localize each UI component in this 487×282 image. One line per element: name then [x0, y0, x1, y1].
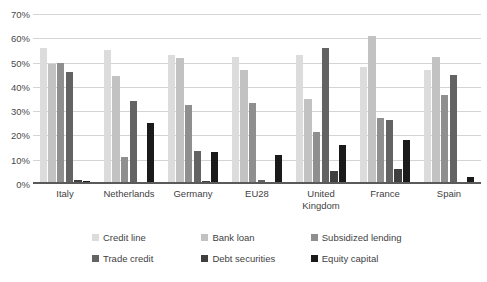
bar — [211, 152, 219, 184]
bar — [403, 140, 411, 184]
x-axis-category-labels: ItalyNetherlandsGermanyEU28United Kingdo… — [33, 188, 481, 211]
bar — [322, 48, 330, 184]
x-tick-label: United Kingdom — [289, 188, 353, 211]
bar — [232, 57, 240, 185]
bar-group — [97, 14, 161, 184]
chart-legend: Credit lineBank loanSubsidized lendingTr… — [92, 232, 432, 264]
x-tick-label: EU28 — [225, 188, 289, 211]
legend-label: Debt securities — [212, 253, 275, 264]
bar-group — [161, 14, 225, 184]
legend-item[interactable]: Subsidized lending — [311, 232, 432, 243]
legend-swatch-icon — [201, 234, 208, 241]
bar-group — [225, 14, 289, 184]
y-tick-label: 40% — [11, 81, 30, 92]
bar — [147, 123, 155, 184]
bar — [130, 101, 138, 184]
x-tick-label: Italy — [33, 188, 97, 211]
y-tick-label: 10% — [11, 154, 30, 165]
bar — [368, 36, 376, 184]
bar-group — [353, 14, 417, 184]
legend-swatch-icon — [311, 255, 318, 262]
bar — [441, 95, 449, 184]
legend-item[interactable]: Bank loan — [201, 232, 306, 243]
legend-item[interactable]: Debt securities — [201, 253, 306, 264]
bar-group — [417, 14, 481, 184]
bar — [386, 120, 394, 184]
bar — [275, 155, 283, 184]
x-tick-label: Spain — [417, 188, 481, 211]
bar — [339, 145, 347, 184]
legend-swatch-icon — [92, 234, 99, 241]
bar — [48, 64, 56, 184]
bar — [313, 132, 321, 184]
x-tick-label: Netherlands — [97, 188, 161, 211]
legend-label: Subsidized lending — [322, 232, 402, 243]
x-tick-label: Germany — [161, 188, 225, 211]
bar — [40, 48, 48, 184]
bar — [450, 75, 458, 184]
bar-groups — [33, 14, 481, 184]
y-axis-tick-labels: 0%10%20%30%40%50%60%70% — [0, 14, 30, 184]
bar — [360, 67, 368, 184]
legend-item[interactable]: Equity capital — [311, 253, 432, 264]
bar-group — [289, 14, 353, 184]
bar — [57, 63, 65, 184]
x-axis-line — [33, 182, 481, 184]
legend-item[interactable]: Credit line — [92, 232, 197, 243]
bar-group — [33, 14, 97, 184]
bar-chart: 0%10%20%30%40%50%60%70% ItalyNetherlands… — [0, 0, 487, 282]
plot-area — [33, 14, 481, 184]
bar — [185, 105, 193, 184]
y-tick-label: 60% — [11, 33, 30, 44]
legend-item[interactable]: Trade credit — [92, 253, 197, 264]
bar — [121, 157, 129, 184]
bar — [432, 57, 440, 185]
bar — [240, 70, 248, 184]
legend-swatch-icon — [92, 255, 99, 262]
y-tick-label: 0% — [16, 179, 30, 190]
legend-swatch-icon — [311, 234, 318, 241]
bar — [304, 99, 312, 184]
bar — [168, 55, 176, 184]
bar — [249, 103, 257, 184]
bar — [176, 58, 184, 184]
legend-label: Bank loan — [212, 232, 254, 243]
bar — [194, 151, 202, 184]
legend-swatch-icon — [201, 255, 208, 262]
bar — [66, 72, 74, 184]
bar — [104, 50, 112, 184]
y-tick-label: 30% — [11, 106, 30, 117]
bar — [112, 76, 120, 184]
bar — [377, 118, 385, 184]
legend-label: Credit line — [103, 232, 146, 243]
bar — [296, 55, 304, 184]
y-tick-label: 20% — [11, 130, 30, 141]
x-tick-label: France — [353, 188, 417, 211]
bar — [424, 70, 432, 184]
legend-label: Equity capital — [322, 253, 379, 264]
y-tick-label: 70% — [11, 9, 30, 20]
y-tick-label: 50% — [11, 57, 30, 68]
legend-label: Trade credit — [103, 253, 153, 264]
